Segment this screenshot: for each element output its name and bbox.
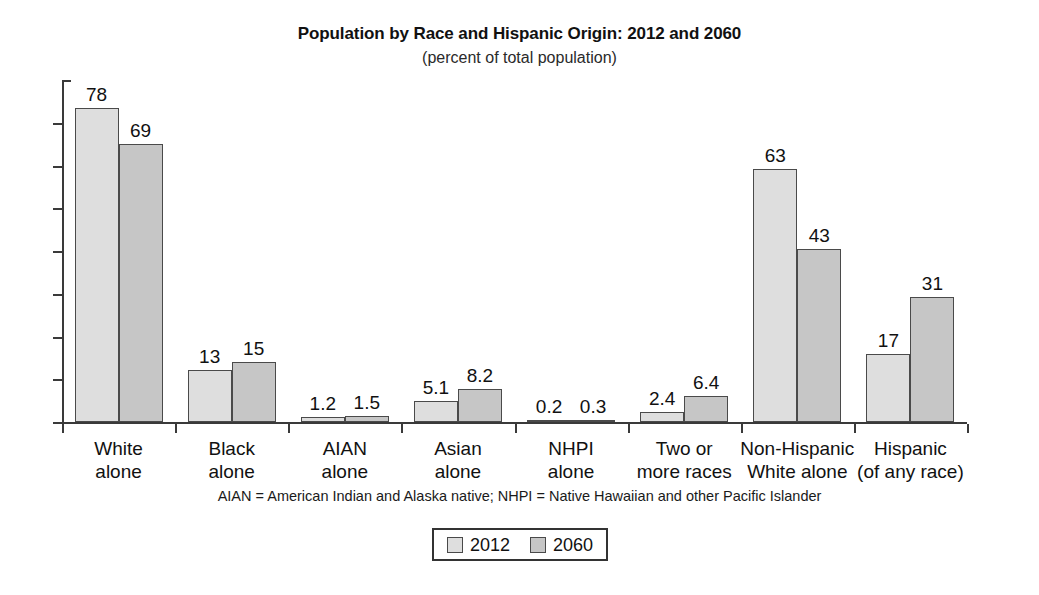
bar-2012-7[interactable] xyxy=(866,354,910,422)
x-axis-tick xyxy=(62,424,64,433)
category-label-2: AIANalone xyxy=(280,437,409,483)
category-label-line: alone xyxy=(280,460,409,483)
bar-2060-1[interactable] xyxy=(232,362,276,422)
bar-2060-6[interactable] xyxy=(797,249,841,422)
category-label-6: Non-HispanicWhite alone xyxy=(733,437,862,483)
bar-value-label: 43 xyxy=(783,225,855,246)
chart-figure: Population by Race and Hispanic Origin: … xyxy=(0,0,1039,595)
category-label-1: Blackalone xyxy=(167,437,296,483)
bar-2060-4[interactable] xyxy=(571,420,615,422)
bar-2060-2[interactable] xyxy=(345,416,389,422)
category-label-line: (of any race) xyxy=(846,460,975,483)
x-axis-tick xyxy=(401,424,403,433)
category-label-line: White alone xyxy=(733,460,862,483)
category-label-7: Hispanic(of any race) xyxy=(846,437,975,483)
x-axis-tick xyxy=(967,424,969,433)
category-label-line: Black xyxy=(167,437,296,460)
x-axis-tick xyxy=(515,424,517,433)
category-label-line: alone xyxy=(507,460,636,483)
bar-2060-7[interactable] xyxy=(910,297,954,422)
category-label-5: Two ormore races xyxy=(620,437,749,483)
y-axis-tick xyxy=(53,208,64,210)
bar-2012-5[interactable] xyxy=(640,412,684,422)
bar-value-label: 69 xyxy=(105,120,177,141)
y-axis-top-cap xyxy=(62,80,71,82)
bar-value-label: 78 xyxy=(61,84,133,105)
bar-value-label: 6.4 xyxy=(670,372,742,393)
y-axis-tick xyxy=(53,251,64,253)
plot-area: 786913151.21.55.18.20.20.32.46.463431731 xyxy=(62,80,967,422)
category-label-line: Two or xyxy=(620,437,749,460)
legend-item-2012[interactable]: 2012 xyxy=(447,536,510,554)
category-label-line: AIAN xyxy=(280,437,409,460)
bar-2060-0[interactable] xyxy=(119,144,163,422)
chart-title-block: Population by Race and Hispanic Origin: … xyxy=(0,24,1039,68)
legend-label-2012: 2012 xyxy=(470,536,510,554)
category-label-line: Asian xyxy=(393,437,522,460)
bar-value-label: 1.5 xyxy=(331,392,403,413)
bar-2012-6[interactable] xyxy=(753,169,797,422)
category-label-3: Asianalone xyxy=(393,437,522,483)
bar-2012-2[interactable] xyxy=(301,417,345,422)
x-axis-tick xyxy=(288,424,290,433)
y-axis-tick xyxy=(53,123,64,125)
category-label-line: Hispanic xyxy=(846,437,975,460)
chart-title: Population by Race and Hispanic Origin: … xyxy=(0,24,1039,44)
bar-value-label: 31 xyxy=(896,273,968,294)
chart-footnote: AIAN = American Indian and Alaska native… xyxy=(0,488,1039,504)
bar-value-label: 15 xyxy=(218,338,290,359)
category-label-line: Non-Hispanic xyxy=(733,437,862,460)
category-label-line: alone xyxy=(167,460,296,483)
bar-2012-1[interactable] xyxy=(188,370,232,422)
y-axis-tick xyxy=(53,379,64,381)
x-axis-tick xyxy=(741,424,743,433)
x-axis-tick xyxy=(175,424,177,433)
bar-value-label: 17 xyxy=(852,330,924,351)
y-axis-tick xyxy=(53,337,64,339)
bar-value-label: 8.2 xyxy=(444,365,516,386)
category-label-4: NHPIalone xyxy=(507,437,636,483)
bar-value-label: 0.3 xyxy=(557,396,629,417)
legend-swatch-icon-2012 xyxy=(447,537,463,553)
bar-value-label: 63 xyxy=(739,145,811,166)
category-label-line: NHPI xyxy=(507,437,636,460)
chart-legend: 2012 2060 xyxy=(432,528,608,561)
category-label-line: more races xyxy=(620,460,749,483)
bar-2012-3[interactable] xyxy=(414,401,458,422)
category-label-line: White xyxy=(54,437,183,460)
x-axis-line xyxy=(53,422,967,424)
chart-subtitle: (percent of total population) xyxy=(0,48,1039,68)
y-axis-tick xyxy=(53,294,64,296)
x-axis-tick xyxy=(854,424,856,433)
category-label-0: Whitealone xyxy=(54,437,183,483)
category-label-line: alone xyxy=(393,460,522,483)
category-label-line: alone xyxy=(54,460,183,483)
x-axis-tick xyxy=(628,424,630,433)
bar-2012-4[interactable] xyxy=(527,420,571,422)
y-axis-tick xyxy=(53,166,64,168)
legend-swatch-icon-2060 xyxy=(530,537,546,553)
legend-item-2060[interactable]: 2060 xyxy=(530,536,593,554)
legend-label-2060: 2060 xyxy=(553,536,593,554)
bar-2012-0[interactable] xyxy=(75,108,119,422)
